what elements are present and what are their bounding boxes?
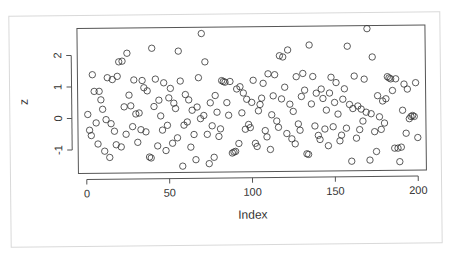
scatter-plot: 050100150200 -1012 Index z <box>0 0 449 253</box>
y-tick-label: 2 <box>51 52 63 58</box>
chart-figure: 050100150200 -1012 Index z <box>0 0 449 253</box>
y-tick-label: 0 <box>52 115 64 121</box>
x-tick-label: 0 <box>84 187 90 199</box>
x-tick-label: 50 <box>164 187 176 199</box>
x-axis-title: Index <box>238 208 268 222</box>
y-tick-label: 1 <box>52 84 64 90</box>
x-tick-label: 100 <box>243 186 261 198</box>
y-tick-label: -1 <box>52 145 64 155</box>
y-axis-title: z <box>17 99 31 105</box>
x-tick-label: 150 <box>326 185 344 197</box>
x-tick-label: 200 <box>409 184 427 196</box>
